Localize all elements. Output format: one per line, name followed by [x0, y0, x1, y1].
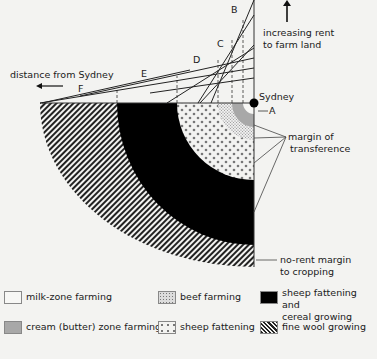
- legend-item-beef: beef farming: [158, 291, 241, 304]
- sheep-cereal-swatch: [260, 291, 278, 304]
- curve-label-b: B: [231, 4, 238, 16]
- fine-wool-swatch: [260, 321, 278, 334]
- curve-label-a: A: [269, 105, 276, 117]
- axis-y-label-2: to farm land: [263, 39, 321, 51]
- sydney-label: Sydney: [259, 91, 294, 103]
- legend-item-cream: cream (butter) zone farming: [4, 321, 161, 334]
- curve-label-c: C: [217, 38, 224, 50]
- curve-label-f: F: [78, 83, 83, 95]
- milk-swatch: [4, 291, 22, 304]
- axis-y-label-1: increasing rent: [263, 27, 334, 39]
- axis-x-label: distance from Sydney: [10, 69, 114, 81]
- legend-item-milk: milk-zone farming: [4, 291, 112, 304]
- sydney-marker: [250, 99, 259, 108]
- margin-transference-1: margin of: [288, 131, 334, 143]
- no-rent-margin-2: to cropping: [280, 266, 334, 278]
- legend-item-sheep-cereal: sheep fattening andcereal growing: [260, 287, 377, 323]
- curve-label-d: D: [193, 54, 200, 66]
- cream-swatch: [4, 321, 22, 334]
- legend-item-sheep-fattening: sheep fattening: [158, 321, 255, 334]
- margin-transference-2: transference: [290, 143, 350, 155]
- curve-label-e: E: [141, 68, 147, 80]
- sheep-fattening-swatch: [158, 321, 176, 334]
- no-rent-margin-1: no-rent margin: [280, 254, 351, 266]
- beef-swatch: [158, 291, 176, 304]
- legend-item-fine-wool: fine wool growing: [260, 321, 366, 334]
